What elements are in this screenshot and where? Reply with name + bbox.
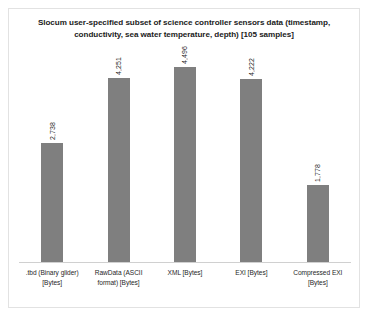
category-axis: .tbd (Binary glider) [Bytes]RawData (ASC… (19, 266, 351, 306)
bar[interactable] (240, 79, 262, 262)
bar[interactable] (307, 185, 329, 262)
plot-area: 2,7384,2514,4964,2221,778 (19, 45, 351, 262)
chart-title: Slocum user-specified subset of science … (25, 17, 343, 41)
category-label: RawData (ASCII format) [Bytes] (85, 266, 151, 287)
chart-frame: Slocum user-specified subset of science … (8, 8, 360, 308)
bar-value-label: 4,251 (115, 57, 122, 75)
bar-column: 4,222 (240, 58, 262, 262)
category-axis-line (19, 262, 351, 263)
category-tick: RawData (ASCII format) [Bytes] (85, 266, 151, 287)
category-label: EXI [Bytes] (218, 266, 284, 278)
category-tick: Compressed EXI [Bytes] (285, 266, 351, 287)
bar-value-label: 2,738 (49, 122, 56, 140)
category-tick: .tbd (Binary glider) [Bytes] (19, 266, 85, 287)
category-label: .tbd (Binary glider) [Bytes] (19, 266, 85, 287)
bar-slot: 4,222 (218, 45, 284, 262)
bar-value-label: 4,222 (248, 58, 255, 76)
category-label: XML [Bytes] (152, 266, 218, 278)
bar-slot: 1,778 (285, 45, 351, 262)
bar-slot: 2,738 (19, 45, 85, 262)
bar-column: 1,778 (307, 164, 329, 262)
category-tick: XML [Bytes] (152, 266, 218, 278)
category-label: Compressed EXI [Bytes] (285, 266, 351, 287)
bar[interactable] (108, 78, 130, 262)
bar-value-label: 4,496 (181, 46, 188, 64)
bar-column: 2,738 (41, 122, 63, 262)
bar-column: 4,496 (174, 46, 196, 262)
category-tick: EXI [Bytes] (218, 266, 284, 278)
bar[interactable] (174, 67, 196, 262)
bar-slot: 4,251 (85, 45, 151, 262)
bar[interactable] (41, 143, 63, 262)
bar-slot: 4,496 (152, 45, 218, 262)
bar-column: 4,251 (108, 57, 130, 262)
bar-value-label: 1,778 (314, 164, 321, 182)
